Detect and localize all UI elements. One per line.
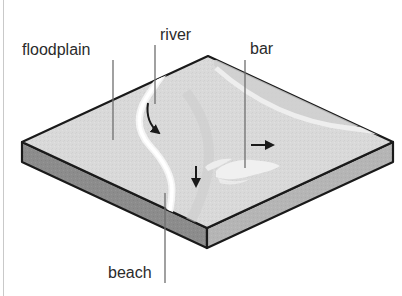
label-floodplain: floodplain xyxy=(22,41,91,58)
block-diagram-svg: floodplain river bar beach xyxy=(0,0,402,296)
label-beach: beach xyxy=(108,264,152,281)
label-bar: bar xyxy=(250,40,274,57)
label-river: river xyxy=(160,26,192,43)
diagram-figure: floodplain river bar beach xyxy=(0,0,402,296)
terrain-block xyxy=(22,56,402,248)
